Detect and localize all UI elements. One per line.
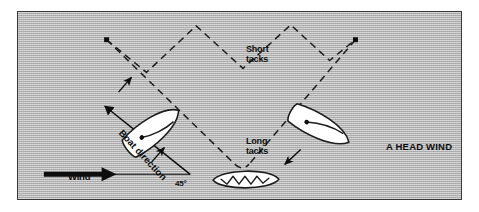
tack-arrow-left-upper (119, 77, 132, 92)
label-long-tacks: Long tacks (246, 137, 268, 156)
label-angle-45: 45° (175, 180, 187, 189)
boat-right (285, 101, 355, 153)
label-short-tacks: Short tacks (246, 45, 269, 64)
boat-left (119, 100, 186, 160)
left-endpoint-dot (104, 37, 109, 42)
label-wind: Wind (68, 172, 90, 182)
figure-frame: Short tacks Long tacks A HEAD WIND Wind … (17, 11, 462, 200)
long-tack-vertex (235, 164, 249, 167)
tack-arrow-right (285, 150, 301, 165)
short-tacks-zigzag (107, 25, 356, 72)
boat-bottom (213, 171, 279, 188)
label-head-wind: A HEAD WIND (386, 142, 452, 152)
right-endpoint-dot (353, 37, 358, 42)
sailing-tacking-figure: Short tacks Long tacks A HEAD WIND Wind … (0, 0, 479, 212)
